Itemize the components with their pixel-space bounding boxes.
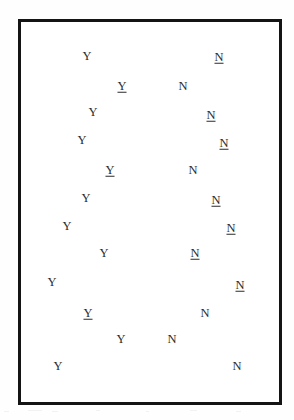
label-mark-y: Y [81, 192, 90, 205]
label-mark-n: N [211, 194, 220, 207]
label-mark-n: N [167, 333, 176, 346]
label-mark-n: N [200, 307, 209, 320]
scan-speckle [52, 411, 58, 412]
label-mark-y: Y [47, 276, 56, 289]
label-mark-y: Y [83, 307, 92, 320]
label-mark-n: N [226, 222, 235, 235]
label-mark-y: Y [88, 106, 97, 119]
label-mark-n: N [178, 80, 187, 93]
label-mark-n: N [190, 247, 199, 260]
label-mark-n: N [214, 51, 223, 64]
label-mark-y: Y [82, 50, 91, 63]
label-mark-y: Y [53, 360, 62, 373]
label-mark-y: Y [117, 80, 126, 93]
label-mark-n: N [219, 137, 228, 150]
label-mark-n: N [188, 164, 197, 177]
label-mark-y: Y [62, 220, 71, 233]
label-mark-n: N [232, 360, 241, 373]
label-mark-n: N [206, 109, 215, 122]
scan-speckle [28, 410, 42, 411]
label-mark-y: Y [99, 247, 108, 260]
scan-speckle [236, 411, 241, 412]
scan-speckle [96, 410, 100, 411]
scan-speckle [4, 411, 9, 412]
plot-frame: YYYYYYYYYYYYNNNNNNNNNNNN [18, 19, 282, 405]
scan-speckle [190, 410, 197, 411]
label-mark-y: Y [77, 134, 86, 147]
label-mark-y: Y [105, 164, 114, 177]
figure-page: YYYYYYYYYYYYNNNNNNNNNNNN [0, 0, 294, 420]
label-mark-y: Y [116, 333, 125, 346]
label-mark-n: N [235, 279, 244, 292]
scan-speckle [146, 411, 149, 412]
